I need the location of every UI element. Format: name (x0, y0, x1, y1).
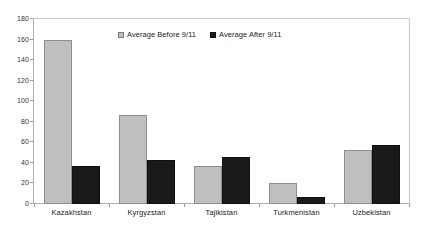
x-axis-category-label: Tajikistan (184, 208, 259, 217)
bars-layer (34, 19, 409, 204)
bar-before (194, 166, 222, 204)
bar-after (147, 160, 175, 204)
bar-after (372, 145, 400, 204)
y-axis-tick-label: 180 (17, 15, 29, 22)
y-axis-tick-label: 160 (17, 35, 29, 42)
x-axis-category-label: Kazakhstan (34, 208, 109, 217)
bar-before (269, 183, 297, 204)
x-axis-tick-mark (334, 204, 335, 207)
y-axis-tick-label: 40 (21, 158, 29, 165)
y-axis: 180160140120100806040200 (0, 18, 29, 204)
x-axis-category-label: Uzbekistan (334, 208, 409, 217)
x-axis-category-label: Turkmenistan (259, 208, 334, 217)
x-axis: KazakhstanKyrgyzstanTajikistanTurkmenist… (34, 208, 409, 217)
legend-label: Average After 9/11 (219, 30, 281, 39)
y-axis-tick-label: 120 (17, 76, 29, 83)
bar-group (34, 19, 109, 204)
bar-group (184, 19, 259, 204)
x-axis-tick-mark (259, 204, 260, 207)
chart-legend: Average Before 9/11Average After 9/11 (118, 30, 281, 39)
bar-after (222, 157, 250, 204)
legend-swatch-after-icon (210, 32, 216, 38)
bar-after (72, 166, 100, 204)
bar-chart: 180160140120100806040200 KazakhstanKyrgy… (0, 0, 424, 236)
bar-group (109, 19, 184, 204)
bar-group (259, 19, 334, 204)
legend-entry[interactable]: Average After 9/11 (210, 30, 281, 39)
y-axis-tick-label: 20 (21, 179, 29, 186)
x-axis-tick-mark (409, 204, 410, 207)
bar-before (44, 40, 72, 204)
legend-entry[interactable]: Average Before 9/11 (118, 30, 196, 39)
y-axis-tick-label: 140 (17, 56, 29, 63)
x-axis-category-label: Kyrgyzstan (109, 208, 184, 217)
bar-group (334, 19, 409, 204)
y-axis-tick-label: 100 (17, 97, 29, 104)
bar-before (119, 115, 147, 204)
legend-label: Average Before 9/11 (127, 30, 196, 39)
legend-swatch-before-icon (118, 32, 124, 38)
x-axis-tick-mark (184, 204, 185, 207)
bar-after (297, 197, 325, 204)
y-axis-tick-label: 60 (21, 138, 29, 145)
bar-before (344, 150, 372, 204)
y-axis-tick-label: 80 (21, 117, 29, 124)
x-axis-tick-mark (109, 204, 110, 207)
x-axis-tick-mark (34, 204, 35, 207)
